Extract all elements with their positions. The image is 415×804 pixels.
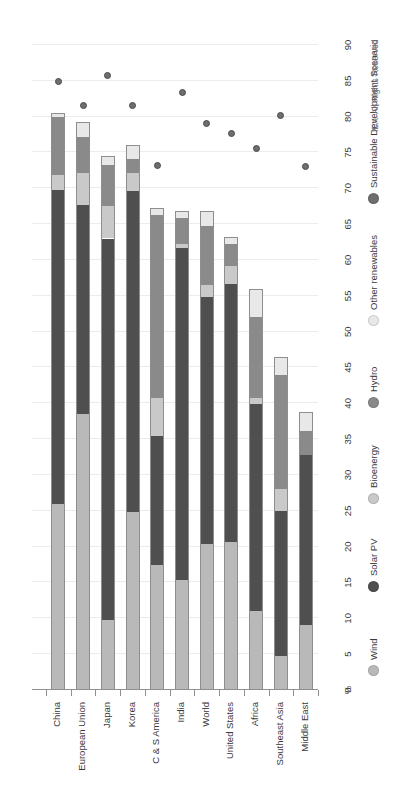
- bar-japan[interactable]: [101, 156, 115, 690]
- scenario-dot[interactable]: [154, 162, 161, 169]
- category-tick: [170, 690, 171, 696]
- category-label: Korea: [126, 702, 137, 727]
- y-axis-tick-label: 35: [342, 425, 353, 453]
- bar-segment-other-renewables: [224, 237, 238, 244]
- bar-united-states[interactable]: [224, 237, 238, 690]
- bar-segment-other-renewables: [101, 156, 115, 165]
- bar-segment-hydro: [249, 317, 263, 398]
- scenario-dot[interactable]: [302, 163, 309, 170]
- bar-segment-hydro: [299, 431, 313, 455]
- bar-segment-bioenergy: [101, 206, 115, 239]
- bar-india[interactable]: [175, 211, 189, 690]
- bar-segment-solar-pv: [274, 511, 288, 656]
- bar-segment-hydro: [224, 244, 238, 266]
- scenario-dot[interactable]: [203, 120, 210, 127]
- bar-segment-solar-pv: [150, 436, 164, 565]
- gridline: [32, 80, 318, 81]
- legend-item-wind[interactable]: Wind: [368, 638, 379, 676]
- bar-segment-other-renewables: [126, 145, 140, 159]
- category-tick: [46, 690, 47, 696]
- y-axis-tick-label: 80: [342, 103, 353, 131]
- bar-segment-wind: [175, 580, 189, 690]
- legend-item-hydro[interactable]: Hydro: [368, 367, 379, 408]
- bar-korea[interactable]: [126, 145, 140, 690]
- category-tick: [194, 690, 195, 696]
- gridline: [32, 152, 318, 153]
- copyright-credit: IEA. All Rights Reserved: [370, 39, 380, 132]
- chart-page: 051015202530354045505560657075808590%Chi…: [0, 0, 415, 804]
- y-axis-tick-label: 5: [342, 640, 353, 668]
- gridline: [32, 116, 318, 117]
- scenario-dot[interactable]: [228, 130, 235, 137]
- bar-middle-east[interactable]: [299, 412, 313, 690]
- category-tick: [120, 690, 121, 696]
- y-axis-tick-label: 25: [342, 497, 353, 525]
- bar-segment-hydro: [175, 218, 189, 243]
- bar-segment-solar-pv: [175, 248, 189, 581]
- y-axis-tick-label: 40: [342, 389, 353, 417]
- bar-segment-hydro: [76, 137, 90, 174]
- category-label: Africa: [249, 702, 260, 726]
- y-axis-tick-label: 90: [342, 31, 353, 59]
- scenario-dot[interactable]: [179, 89, 186, 96]
- bar-c-s-america[interactable]: [150, 208, 164, 690]
- category-tick: [71, 690, 72, 696]
- scenario-dot[interactable]: [253, 145, 260, 152]
- bar-segment-hydro: [101, 165, 115, 205]
- bar-segment-hydro: [126, 159, 140, 173]
- legend-label: Solar PV: [368, 539, 379, 577]
- y-axis-tick-label: 50: [342, 318, 353, 346]
- bar-segment-wind: [150, 565, 164, 690]
- y-axis-tick-label: 30: [342, 461, 353, 489]
- legend-item-bioenergy[interactable]: Bioenergy: [368, 445, 379, 504]
- y-axis-tick-label: 75: [342, 139, 353, 167]
- bar-segment-solar-pv: [249, 404, 263, 611]
- scenario-dot[interactable]: [104, 72, 111, 79]
- category-tick: [145, 690, 146, 696]
- legend-item-solar-pv[interactable]: Solar PV: [368, 539, 379, 593]
- gridline: [32, 44, 318, 45]
- scenario-dot[interactable]: [55, 78, 62, 85]
- category-label: India: [175, 702, 186, 723]
- plot-rotation-container: 051015202530354045505560657075808590%Chi…: [0, 0, 415, 804]
- legend-label: Other renewables: [368, 235, 379, 310]
- bar-segment-solar-pv: [299, 455, 313, 626]
- circle-marker-icon: [368, 581, 379, 592]
- circle-marker-icon: [368, 665, 379, 676]
- bar-southeast-asia[interactable]: [274, 357, 288, 690]
- scenario-dot[interactable]: [277, 112, 284, 119]
- scenario-dot[interactable]: [129, 102, 136, 109]
- y-axis-tick-label: 45: [342, 354, 353, 382]
- bar-segment-other-renewables: [51, 113, 65, 117]
- bar-segment-other-renewables: [200, 211, 214, 226]
- legend-item-other-renewables[interactable]: Other renewables: [368, 235, 379, 326]
- bar-segment-bioenergy: [76, 173, 90, 205]
- bar-segment-wind: [274, 656, 288, 690]
- bar-segment-wind: [101, 620, 115, 690]
- circle-marker-icon: [368, 397, 379, 408]
- category-tick: [318, 690, 319, 696]
- category-tick: [244, 690, 245, 696]
- bar-segment-other-renewables: [150, 208, 164, 215]
- bar-world[interactable]: [200, 211, 214, 690]
- bar-segment-wind: [224, 542, 238, 690]
- bar-european-union[interactable]: [76, 122, 90, 690]
- bar-segment-solar-pv: [224, 284, 238, 542]
- bar-segment-bioenergy: [200, 285, 214, 296]
- bar-segment-hydro: [150, 215, 164, 398]
- bar-africa[interactable]: [249, 289, 263, 690]
- bar-segment-solar-pv: [76, 205, 90, 414]
- category-label: China: [51, 702, 62, 727]
- category-label: Japan: [101, 702, 112, 728]
- category-label: Middle East: [299, 702, 310, 752]
- bar-segment-hydro: [200, 226, 214, 285]
- bar-segment-hydro: [51, 117, 65, 175]
- scenario-dot[interactable]: [80, 102, 87, 109]
- bar-segment-wind: [126, 512, 140, 690]
- bar-china[interactable]: [51, 113, 65, 690]
- bar-segment-wind: [51, 504, 65, 690]
- y-axis-tick-label: 20: [342, 533, 353, 561]
- category-tick: [269, 690, 270, 696]
- y-axis-tick-label: 10: [342, 604, 353, 632]
- bar-segment-other-renewables: [249, 289, 263, 318]
